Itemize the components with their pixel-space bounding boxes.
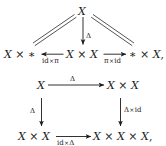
- commutative-diagram-figure: X Δ X × ∗ X × X ∗ × X, id×π π×id X X × X…: [0, 0, 166, 146]
- triangle-right-object: ∗ × X,: [129, 49, 164, 60]
- square-bottom-right-object-comma: ,: [149, 130, 153, 143]
- square-bottom-right-object-text: X × X × X: [93, 130, 149, 143]
- triangle-left-object: X × ∗: [4, 49, 36, 60]
- square-top-left-object: X: [37, 80, 45, 91]
- square-bottom-right-object: X × X × X,: [93, 131, 152, 142]
- triangle-apex-object: X: [78, 6, 86, 17]
- square-bottom-arrow-label-head: id: [57, 139, 64, 146]
- right-equality-diagonal: [91, 15, 134, 46]
- triangle-right-arrow-label-tail: id: [114, 57, 121, 65]
- square-bottom-arrow-label: id×Δ: [57, 139, 74, 146]
- square-bottom-left-object-text: X × X: [18, 130, 50, 143]
- square-left-arrow-label: Δ: [30, 108, 35, 115]
- triangle-left-object-text: X × ∗: [4, 48, 36, 61]
- triangle-left-arrow-label-head: id: [42, 57, 49, 65]
- triangle-right-arrow-label: π×id: [104, 57, 121, 65]
- triangle-right-object-comma: ,: [161, 48, 165, 61]
- triangle-right-object-text: ∗ × X: [129, 48, 161, 61]
- left-equality-diagonal: [33, 15, 76, 46]
- square-right-arrow-label: Δ×id: [124, 106, 141, 114]
- triangle-center-arrow-label: Δ: [86, 33, 91, 40]
- square-top-arrow-label: Δ: [70, 76, 75, 83]
- triangle-left-arrow-label: id×π: [42, 57, 59, 65]
- square-top-right-object: X × X: [107, 80, 139, 91]
- diagram-edges: [0, 0, 166, 146]
- square-bottom-left-object: X × X: [18, 131, 50, 142]
- square-top-right-object-text: X × X: [107, 79, 139, 92]
- square-bottom-arrow-label-tail: Δ: [69, 139, 74, 146]
- square-right-arrow-label-tail: id: [135, 106, 142, 114]
- triangle-left-arrow-label-tail: π: [54, 57, 59, 65]
- triangle-center-object: X × X: [66, 49, 98, 60]
- triangle-center-object-text: X × X: [66, 48, 98, 61]
- triangle-right-arrow-label-head: π: [104, 57, 109, 65]
